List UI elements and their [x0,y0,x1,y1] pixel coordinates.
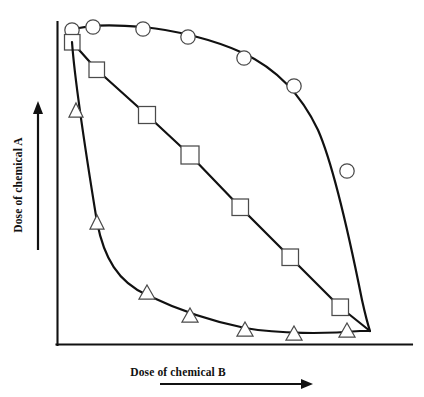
axes-group [57,22,413,345]
antagonism-curve [72,25,370,331]
antagonism-point-4 [181,30,195,44]
antagonism-point-3 [136,22,150,36]
synergy-point-7 [339,323,355,337]
additivity-point-4 [181,146,199,164]
x-axis-label-group: Dose of chemical B [130,366,313,389]
antagonism-point-7 [340,164,354,178]
synergy-point-2 [90,215,104,229]
series-additivity [65,35,371,332]
additivity-point-3 [139,107,156,124]
y-axis-label-group: Dose of chemical A [12,101,43,250]
antagonism-point-6 [287,79,301,93]
additivity-point-2 [89,62,105,78]
y-axis-arrow-head [33,101,43,114]
antagonism-point-5 [237,51,251,65]
series-antagonism [65,20,370,331]
additivity-point-6 [282,249,299,266]
isobologram-figure: Dose of chemical B Dose of chemical A [0,0,424,397]
x-axis-title: Dose of chemical B [130,366,226,378]
additivity-point-7 [332,299,349,316]
chart-canvas: Dose of chemical B Dose of chemical A [0,0,424,397]
additivity-curve [72,42,370,331]
y-axis-title: Dose of chemical A [12,137,24,233]
antagonism-point-2 [86,20,100,34]
x-axis-arrow-head [301,379,313,389]
additivity-point-5 [232,199,249,216]
